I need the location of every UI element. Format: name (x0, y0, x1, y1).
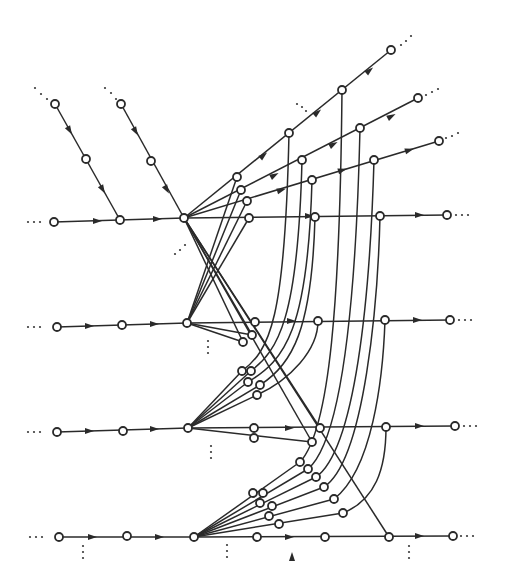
graph-node (256, 381, 264, 389)
ellipsis-dot (46, 98, 48, 100)
graph-node (239, 338, 247, 346)
graph-node (147, 157, 155, 165)
graph-node (243, 197, 251, 205)
ellipsis-dot (408, 557, 410, 559)
graph-node (435, 137, 443, 145)
ellipsis-dot (39, 431, 41, 433)
ellipsis-dot (174, 253, 176, 255)
graph-node (296, 458, 304, 466)
arrowhead-icon (150, 321, 159, 327)
arrowhead-icon (415, 533, 424, 539)
graph-node (253, 391, 261, 399)
directed-edge (188, 382, 248, 428)
ellipsis-dot (82, 551, 84, 553)
ellipsis-dot (115, 98, 117, 100)
ellipsis-dot (457, 132, 459, 134)
ellipsis-dot (82, 557, 84, 559)
graph-node (285, 129, 293, 137)
ellipsis-dot (408, 551, 410, 553)
graph-node (321, 533, 329, 541)
graph-node (123, 532, 131, 540)
graph-node (356, 124, 364, 132)
graph-node (50, 218, 58, 226)
directed-edge (187, 201, 247, 323)
directed-edge (188, 385, 260, 428)
graph-node (55, 533, 63, 541)
graph-node (338, 86, 346, 94)
ellipsis-dot (410, 35, 412, 37)
arrowhead-icon (258, 150, 269, 160)
ellipsis-dot (464, 319, 466, 321)
ellipsis-dot (210, 445, 212, 447)
directed-edge (184, 218, 252, 335)
ellipsis-dot (226, 544, 228, 546)
graph-node (119, 427, 127, 435)
ellipsis-dot (475, 425, 477, 427)
arrowhead-icon (98, 184, 108, 195)
ellipsis-dot (460, 535, 462, 537)
graph-node (82, 155, 90, 163)
graph-node (253, 533, 261, 541)
graph-node (53, 428, 61, 436)
graph-node (250, 434, 258, 442)
graph-node (117, 100, 125, 108)
ellipsis-dot (431, 91, 433, 93)
graph-node (330, 495, 338, 503)
ellipsis-dot (33, 326, 35, 328)
graph-node (265, 512, 273, 520)
directed-edge (194, 462, 300, 537)
ellipsis-dot (39, 221, 41, 223)
ellipsis-dot (210, 451, 212, 453)
ellipsis-dot (110, 92, 112, 94)
directed-edge (187, 323, 252, 335)
ellipsis-dot (207, 352, 209, 354)
edge-layer (54, 50, 455, 537)
ellipsis-dot (405, 40, 407, 42)
graph-node (183, 319, 191, 327)
ellipsis-dot (469, 425, 471, 427)
graph-node (381, 316, 389, 324)
ellipsis-dot (437, 88, 439, 90)
ellipsis-dot (29, 536, 31, 538)
graph-node (414, 94, 422, 102)
directed-edge (324, 216, 380, 487)
ellipsis-dot (210, 457, 212, 459)
graph-node (312, 473, 320, 481)
graph-node (268, 502, 276, 510)
ellipsis-dot (184, 244, 186, 246)
ellipsis-dot (27, 326, 29, 328)
arrowhead-icon (85, 428, 94, 434)
directed-edge (188, 395, 257, 428)
directed-edge (316, 160, 374, 477)
ellipsis-dot (27, 221, 29, 223)
ellipsis-dot (34, 87, 36, 89)
graph-node (250, 424, 258, 432)
graph-node (116, 216, 124, 224)
arrowhead-icon (285, 534, 294, 540)
directed-edge (188, 371, 242, 428)
graph-node (275, 520, 283, 528)
graph-node (184, 424, 192, 432)
ellipsis-dot (39, 326, 41, 328)
ellipsis-dot (305, 110, 307, 112)
ellipsis-dot (296, 103, 298, 105)
graph-node (249, 489, 257, 497)
ellipsis-dot (408, 545, 410, 547)
graph-node (118, 321, 126, 329)
ellipsis-dot (179, 249, 181, 251)
ellipsis-dot (40, 93, 42, 95)
graph-node (382, 423, 390, 431)
ellipsis-dot (400, 44, 402, 46)
arrowhead-icon (289, 552, 295, 561)
graph-node (316, 424, 324, 432)
graph-node (311, 213, 319, 221)
graph-node (53, 323, 61, 331)
arrowhead-icon (88, 534, 97, 540)
graph-node (180, 214, 188, 222)
directed-edge (188, 371, 251, 428)
arrowhead-icon (85, 323, 94, 329)
ellipsis-dot (467, 214, 469, 216)
ellipsis-dot (33, 221, 35, 223)
ellipsis-dot (33, 431, 35, 433)
ellipsis-dot (104, 87, 106, 89)
